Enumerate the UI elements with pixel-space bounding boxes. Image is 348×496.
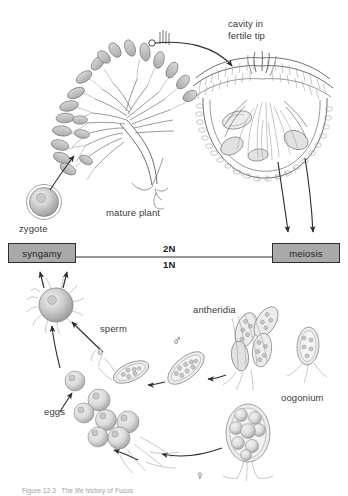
label-oogonium: oogonium	[281, 392, 324, 404]
pointer-oogonium-to-eggs	[162, 448, 222, 456]
oogonium-illustration	[223, 404, 273, 481]
pointer-sperm-to-egg	[72, 322, 103, 352]
pointer-antheridium-to-sperm	[148, 382, 165, 385]
zygote-illustration	[27, 185, 62, 220]
pointer-conceptacle-to-meiosis-left	[278, 162, 288, 232]
conceptacle-cross-section	[193, 51, 333, 181]
pointer-antheridium-to-antheridium	[208, 375, 226, 379]
label-cavity-in-fertile-tip: cavity in fertile tip	[228, 18, 265, 41]
label-antheridia: antheridia	[193, 304, 236, 316]
pointer-sperm-to-syngamy	[63, 272, 67, 288]
antheridia-illustration	[110, 303, 327, 391]
figure-caption: Figure 12.3 The life history of Fucus	[22, 487, 133, 494]
pointer-eggs-to-egg	[52, 326, 60, 368]
pointer-zygote-to-plant	[50, 156, 74, 190]
label-zygote: zygote	[19, 223, 48, 235]
label-1n: 1N	[163, 259, 176, 270]
mature-plant-illustration	[50, 30, 199, 209]
pointer-egg-to-syngamy	[40, 272, 44, 288]
life-cycle-figure: cavity in fertile tip mature plant zygot…	[0, 0, 348, 496]
label-eggs: eggs	[44, 406, 65, 418]
label-sperm: sperm	[100, 323, 127, 335]
label-mature-plant: mature plant	[106, 207, 160, 219]
process-box-syngamy[interactable]: syngamy	[8, 243, 76, 263]
eggs-illustration	[65, 371, 139, 449]
pointer-strand-to-eggs	[114, 450, 138, 460]
sperm-illustration	[92, 345, 114, 380]
process-box-meiosis[interactable]: meiosis	[272, 243, 340, 263]
male-symbol: ♂	[172, 334, 182, 347]
female-symbol: ♀	[195, 469, 205, 482]
label-2n: 2N	[163, 243, 176, 254]
pointer-plant-to-conceptacle	[155, 42, 232, 66]
pointer-conceptacle-to-meiosis-right	[305, 158, 313, 232]
syngamy-egg-illustration	[27, 277, 84, 334]
